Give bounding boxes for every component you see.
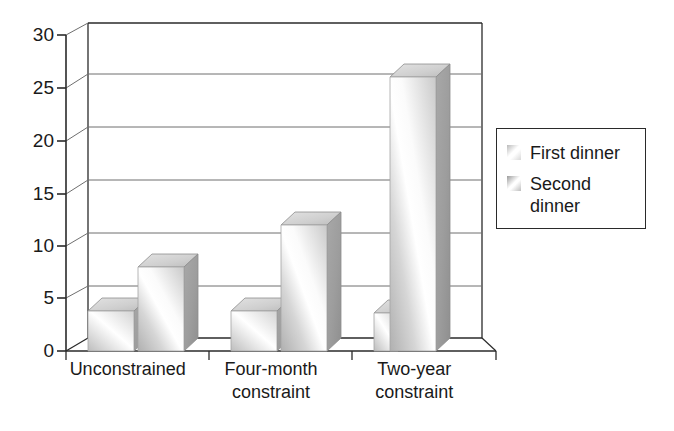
bar-group-two-year-constraint (374, 64, 450, 351)
x-category-label-four-month-constraint: Four-month constraint (199, 358, 342, 404)
y-axis (57, 35, 66, 351)
y-tick-label: 10 (33, 236, 54, 255)
x-category-label-two-year-constraint: Two-year constraint (343, 358, 486, 404)
y-tick-label: 25 (33, 78, 54, 97)
bar-second-dinner-two-year (390, 64, 450, 351)
x-category-label-unconstrained: Unconstrained (56, 358, 199, 381)
bar-second-dinner-four-month (281, 212, 341, 351)
y-tick-label: 30 (33, 25, 54, 44)
legend-label-second-dinner: Second dinner (530, 173, 591, 217)
legend-item-first-dinner: First dinner (507, 142, 645, 164)
y-tick-label: 20 (33, 131, 54, 150)
chart-legend: First dinner Second dinner (496, 128, 646, 229)
y-axis-depth-wall (66, 23, 88, 351)
legend-label-first-dinner: First dinner (530, 142, 620, 164)
y-tick-label: 15 (33, 184, 54, 203)
bar-group-unconstrained (88, 254, 198, 351)
y-tick-label: 0 (43, 341, 54, 360)
first-dinner-swatch-icon (507, 145, 521, 160)
x-axis-labels: Unconstrained Four-month constraint Two-… (56, 358, 486, 424)
bar-second-dinner-unconstrained (138, 254, 198, 351)
bar-chart-figure: 30 25 20 15 10 5 0 Unconstrained Four-mo… (0, 0, 674, 431)
y-tick-label: 5 (43, 288, 54, 307)
second-dinner-swatch-icon (507, 176, 521, 191)
legend-item-second-dinner: Second dinner (507, 173, 645, 217)
y-axis-labels: 30 25 20 15 10 5 0 (10, 0, 54, 431)
